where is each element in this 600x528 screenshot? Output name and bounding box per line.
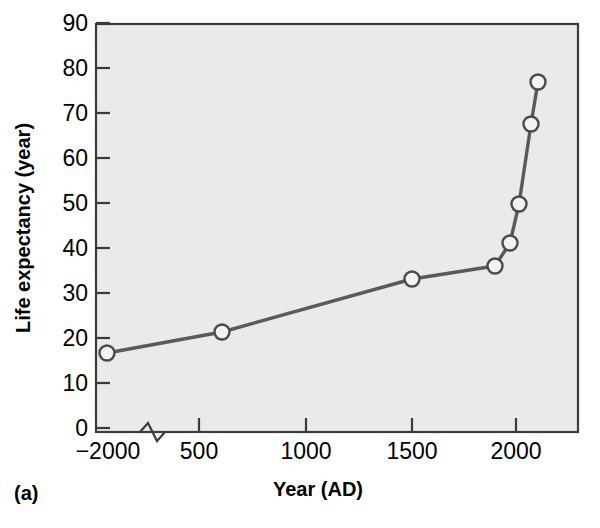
- data-point-marker: [524, 117, 539, 132]
- x-tick-label: −2000: [76, 438, 141, 464]
- data-point-marker: [512, 197, 527, 212]
- x-axis-tick-labels: −2000 500 1000 1500 2000: [76, 438, 542, 464]
- data-point-marker: [215, 325, 230, 340]
- y-tick-label: 70: [62, 100, 88, 126]
- chart-svg: 90 80 70 60 50 40 30 20 10 0 −2000 500 1…: [0, 0, 600, 528]
- y-axis-tick-labels: 90 80 70 60 50 40 30 20 10 0: [62, 10, 88, 441]
- panel-caption: (a): [14, 482, 38, 504]
- y-tick-label: 80: [62, 55, 88, 81]
- y-tick-label: 90: [62, 10, 88, 36]
- y-tick-label: 50: [62, 190, 88, 216]
- data-point-marker: [405, 272, 420, 287]
- x-tick-label: 2000: [490, 438, 541, 464]
- data-point-marker: [503, 236, 518, 251]
- x-tick-label: 1000: [280, 438, 331, 464]
- y-axis-title: Life expectancy (year): [12, 123, 34, 333]
- y-tick-label: 30: [62, 280, 88, 306]
- data-point-marker: [488, 259, 503, 274]
- x-tick-label: 1500: [386, 438, 437, 464]
- y-tick-label: 10: [62, 370, 88, 396]
- x-tick-label: 500: [180, 438, 218, 464]
- plot-background: [96, 24, 578, 432]
- figure-panel: 90 80 70 60 50 40 30 20 10 0 −2000 500 1…: [0, 0, 600, 528]
- data-point-marker: [531, 75, 546, 90]
- data-point-marker: [100, 346, 115, 361]
- x-axis-title: Year (AD): [273, 478, 363, 500]
- y-tick-label: 60: [62, 145, 88, 171]
- y-tick-label: 20: [62, 325, 88, 351]
- y-tick-label: 40: [62, 235, 88, 261]
